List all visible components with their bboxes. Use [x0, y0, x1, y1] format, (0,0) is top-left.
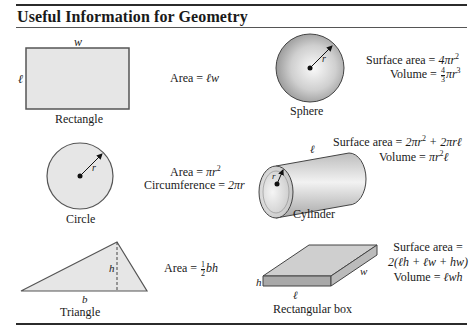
- box-height-label: h: [256, 276, 262, 288]
- box-surface-area-expression: 2(ℓh + ℓw + hw): [384, 255, 472, 270]
- box-caption: Rectangular box: [273, 302, 352, 317]
- volume-prefix: Volume =: [394, 270, 444, 284]
- box-length-label: ℓ: [293, 289, 298, 301]
- box-surface-area-label: Surface area =: [384, 240, 472, 255]
- box-volume-expression: ℓwh: [443, 270, 462, 284]
- bottom-rule: [16, 323, 467, 325]
- box-width-label: w: [360, 265, 367, 277]
- box-volume-formula: Volume = ℓwh: [384, 270, 472, 285]
